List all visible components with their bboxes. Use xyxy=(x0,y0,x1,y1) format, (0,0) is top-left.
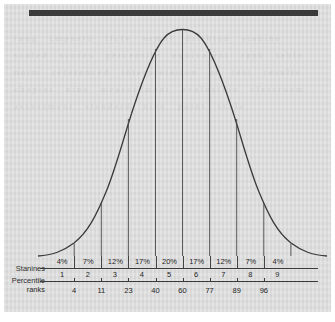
percentile-rank-value: 96 xyxy=(252,285,276,296)
stanines-row-label: Stanines xyxy=(0,264,45,273)
stanine-percent-cell: 17% xyxy=(183,256,210,268)
percentile-rank-value: 23 xyxy=(116,285,140,296)
percentile-rank-value: 40 xyxy=(144,285,168,296)
percentile-rank-value: 11 xyxy=(89,285,113,296)
stanine-percent-cell: 7% xyxy=(237,256,264,268)
stanine-percent-9: 4% xyxy=(265,256,291,268)
stanine-percent-cell: 12% xyxy=(210,256,237,268)
stanine-percent-3: 12% xyxy=(102,256,128,268)
chart-stage: Stanines Percentile ranks 4% 7% 12% 17% … xyxy=(0,0,335,322)
figure-page: rang cmpnsto ffctv nrmal dstrbton stanin… xyxy=(0,0,335,322)
stanine-axis-lead-rule xyxy=(40,268,47,269)
percentile-rank-value: 4 xyxy=(62,285,86,296)
stanine-percent-cell: 17% xyxy=(128,256,155,268)
stanine-percent-2: 7% xyxy=(75,256,101,268)
stanine-percent-4: 17% xyxy=(129,256,155,268)
percentile-axis-rule xyxy=(40,281,318,282)
stanine-percent-cell: 20% xyxy=(156,256,183,268)
stanine-percent-cell: 4% xyxy=(264,256,291,268)
stanine-percent-band-row: 4% 7% 12% 17% 20% 17% 12% 7% 4% xyxy=(47,256,318,268)
stanine-percent-cell: 7% xyxy=(74,256,101,268)
stanine-percent-cell: 12% xyxy=(101,256,128,268)
stanine-divider-lines xyxy=(74,30,291,256)
percentile-number-row: 4 11 23 40 60 77 89 96 xyxy=(0,285,335,296)
percentile-rank-value: 77 xyxy=(198,285,222,296)
stanine-percent-6: 17% xyxy=(184,256,210,268)
stanine-percent-7: 12% xyxy=(211,256,237,268)
stanine-percent-cell: 4% xyxy=(47,256,77,268)
percentile-row-label: Percentile xyxy=(0,276,45,285)
stanine-percent-8: 7% xyxy=(238,256,264,268)
percentile-rank-value: 89 xyxy=(225,285,249,296)
stanine-percent-5: 20% xyxy=(157,256,183,268)
percentile-rank-value: 60 xyxy=(171,285,195,296)
stanine-percent-1: 4% xyxy=(47,256,77,268)
